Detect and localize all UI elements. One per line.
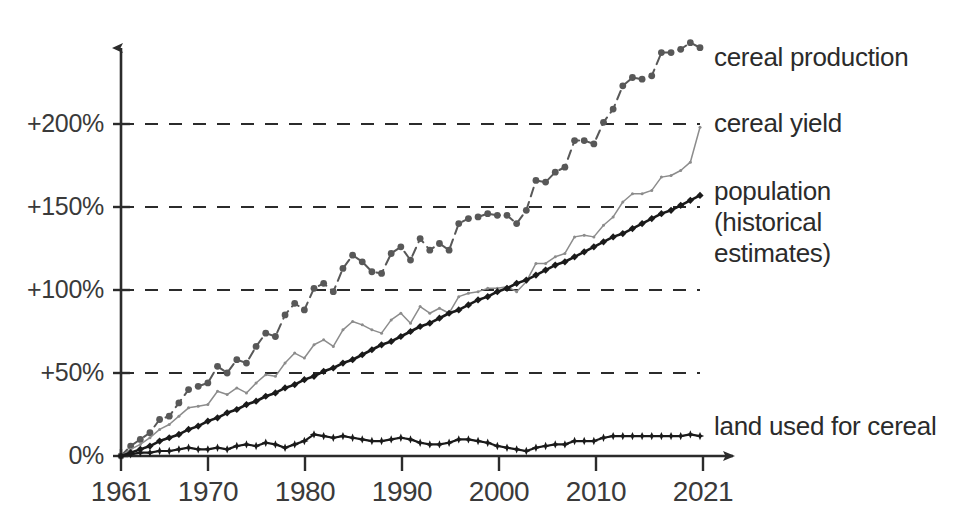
data-point: [368, 437, 376, 445]
data-point: [233, 356, 240, 363]
data-point: [667, 432, 675, 440]
data-point: [319, 432, 327, 440]
data-point: [590, 141, 597, 148]
x-tick-label-2010: 2010: [536, 476, 656, 508]
data-point: [223, 445, 231, 453]
data-point: [477, 290, 480, 293]
data-point: [281, 444, 289, 452]
data-point: [573, 235, 576, 238]
data-point: [580, 437, 588, 445]
data-point: [438, 307, 441, 310]
data-point: [513, 220, 520, 227]
series-label-population-line3: estimates): [714, 238, 831, 269]
data-point: [417, 235, 424, 242]
data-point: [609, 432, 617, 440]
data-point: [332, 345, 335, 348]
data-point: [274, 375, 277, 378]
y-tick-label-50: +50%: [6, 358, 104, 387]
data-point: [235, 386, 238, 389]
data-point: [341, 328, 344, 331]
data-point: [194, 445, 202, 453]
data-point: [184, 444, 192, 452]
data-series-layer: [117, 39, 704, 460]
data-point: [168, 423, 171, 426]
data-point: [224, 370, 231, 377]
data-point: [166, 413, 173, 420]
data-point: [369, 268, 376, 275]
data-point: [272, 333, 279, 340]
data-point: [696, 432, 704, 440]
data-point: [233, 442, 241, 450]
data-point: [562, 164, 569, 171]
data-point: [523, 207, 530, 214]
data-point: [339, 432, 347, 440]
data-point: [213, 444, 221, 452]
data-point: [621, 201, 624, 204]
data-point: [677, 46, 684, 53]
data-point: [583, 234, 586, 237]
data-point: [243, 360, 250, 367]
series-label-land-used-for-cereal: land used for cereal: [714, 411, 936, 442]
data-point: [293, 352, 296, 355]
data-point: [426, 440, 434, 448]
series-cereal-production: [118, 39, 704, 459]
data-point: [467, 292, 470, 295]
data-point: [677, 432, 685, 440]
data-point: [340, 265, 347, 272]
data-point: [455, 220, 462, 227]
data-point: [563, 252, 566, 255]
data-point: [697, 44, 704, 51]
series-label-cereal-production: cereal production: [714, 42, 908, 73]
data-point: [204, 380, 211, 387]
data-point: [409, 322, 412, 325]
data-point: [216, 390, 219, 393]
data-point: [175, 445, 183, 453]
data-point: [370, 328, 373, 331]
data-point: [301, 307, 308, 314]
data-point: [359, 258, 366, 265]
data-point: [670, 174, 673, 177]
data-point: [303, 357, 306, 360]
data-point: [361, 323, 364, 326]
data-point: [380, 332, 383, 335]
data-point: [551, 440, 559, 448]
data-point: [581, 137, 588, 144]
data-point: [484, 439, 492, 447]
data-point: [660, 176, 663, 179]
data-point: [504, 212, 511, 219]
data-point: [534, 262, 537, 265]
data-point: [658, 49, 665, 56]
data-point: [139, 443, 142, 446]
data-point: [397, 243, 404, 250]
data-point: [629, 74, 636, 81]
data-point: [264, 373, 267, 376]
data-point: [561, 440, 569, 448]
data-point: [493, 442, 501, 450]
data-point: [156, 416, 163, 423]
data-point: [446, 247, 453, 254]
data-point: [494, 212, 501, 219]
data-point: [185, 386, 192, 393]
data-point: [552, 169, 559, 176]
data-point: [455, 435, 463, 443]
data-point: [390, 318, 393, 321]
data-point: [679, 169, 682, 172]
series-population-historical-estimates-: [117, 192, 703, 460]
data-point: [195, 383, 202, 390]
y-tick-label-100: +100%: [6, 275, 104, 304]
data-point: [571, 137, 578, 144]
data-point: [349, 252, 356, 259]
data-point: [284, 362, 287, 365]
data-point: [554, 255, 557, 258]
data-point: [650, 189, 653, 192]
data-point: [166, 434, 173, 441]
x-tick-label-2021: 2021: [643, 476, 763, 508]
data-point: [155, 447, 163, 455]
data-point: [204, 445, 212, 453]
data-point: [484, 210, 491, 217]
data-point: [330, 288, 337, 295]
data-point: [320, 280, 327, 287]
data-point: [699, 126, 702, 129]
y-tick-label-200: +200%: [6, 109, 104, 138]
data-point: [628, 432, 636, 440]
